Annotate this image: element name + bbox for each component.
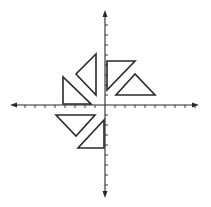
triangle-a <box>107 61 135 90</box>
triangle-b <box>116 74 155 95</box>
y-axis-up-arrow-icon <box>103 10 108 17</box>
coordinate-plane-diagram <box>0 0 211 207</box>
y-axis-down-arrow-icon <box>103 191 108 198</box>
triangle-c <box>76 54 96 95</box>
x-axis-left-arrow-icon <box>10 103 17 108</box>
triangle-d <box>63 77 91 104</box>
triangle-e <box>56 115 95 136</box>
x-axis-right-arrow-icon <box>192 103 199 108</box>
triangle-f <box>78 120 104 148</box>
plot-canvas <box>0 0 211 207</box>
axes <box>10 10 199 198</box>
